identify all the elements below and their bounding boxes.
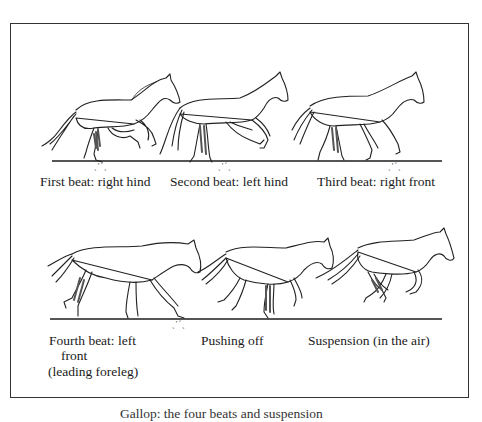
horse-second-beat <box>160 70 300 165</box>
hoof-impact-mark: ˎ′´ˏ <box>388 162 402 171</box>
caption-fourth-beat-line2: front <box>61 348 87 364</box>
horse-third-beat <box>290 70 430 165</box>
hoof-impact-mark: ˎ′´ˏ <box>172 320 186 329</box>
caption-suspension: Suspension (in the air) <box>308 333 430 349</box>
caption-fourth-beat-line1: Fourth beat: left <box>49 333 136 349</box>
caption-fourth-beat-line3: (leading foreleg) <box>48 364 138 380</box>
hoof-impact-mark: ˎ′´ˏ <box>218 162 232 171</box>
horse-first-beat <box>36 70 176 165</box>
figure-caption: Gallop: the four beats and suspension <box>120 406 323 422</box>
caption-first-beat: First beat: right hind <box>40 174 151 190</box>
horse-suspension <box>306 228 456 313</box>
hoof-impact-mark: ˎ′´ˏ <box>94 162 108 171</box>
caption-third-beat: Third beat: right front <box>317 174 435 190</box>
horse-fourth-beat <box>46 236 206 321</box>
caption-second-beat: Second beat: left hind <box>170 174 288 190</box>
caption-pushing-off: Pushing off <box>201 333 263 349</box>
